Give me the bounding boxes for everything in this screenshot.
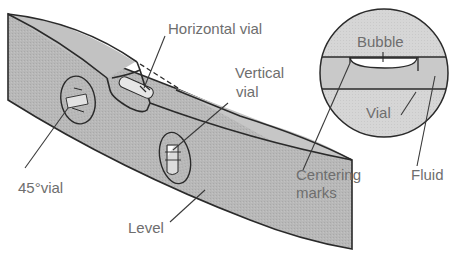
level-front-face (8, 14, 352, 249)
level-diagram: Horizontal vial Vertical vial 45°vial Le… (0, 0, 470, 257)
label-horizontal-vial: Horizontal vial (168, 20, 262, 37)
level-body (8, 14, 352, 249)
label-vertical-vial-line1: Vertical (235, 64, 284, 81)
label-bubble: Bubble (357, 33, 404, 50)
label-45-vial: 45°vial (18, 179, 63, 196)
label-vial: Vial (366, 104, 391, 121)
label-centering-line1: Centering (296, 166, 361, 183)
label-centering-line2: marks (296, 184, 337, 201)
label-level: Level (128, 219, 164, 236)
label-vertical-vial-line2: vial (236, 83, 259, 100)
label-fluid: Fluid (411, 166, 444, 183)
